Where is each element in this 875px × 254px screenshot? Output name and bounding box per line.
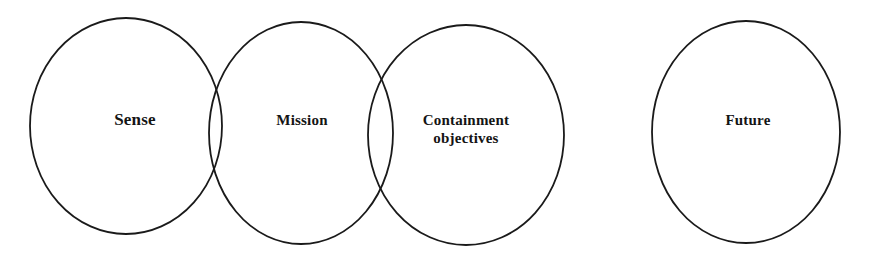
ellipse-mission[interactable] [209,22,393,244]
ellipse-sense[interactable] [30,18,222,234]
ellipse-containment-objectives[interactable] [368,25,564,245]
diagram-canvas: Sense Mission Containment objectives Fut… [0,0,875,254]
ellipse-future[interactable] [652,21,840,243]
diagram-shapes [0,0,875,254]
